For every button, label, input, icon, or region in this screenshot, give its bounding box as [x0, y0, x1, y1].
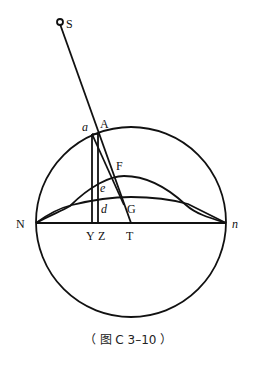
label-a: a	[82, 120, 88, 134]
line-S-T	[60, 24, 131, 223]
label-Z: Z	[98, 229, 105, 243]
label-T: T	[126, 229, 134, 243]
label-F: F	[116, 159, 123, 173]
label-Y: Y	[86, 229, 95, 243]
diagram-canvas: S A a F e d G N n Y Z T （ 图 C 3–10 ）	[0, 0, 257, 368]
label-N: N	[16, 217, 25, 231]
label-d: d	[101, 202, 108, 216]
label-A: A	[100, 117, 109, 131]
point-S-marker	[57, 19, 63, 25]
figure-caption: （ 图 C 3–10 ）	[84, 333, 173, 347]
label-e: e	[100, 181, 106, 195]
label-S: S	[66, 17, 73, 31]
label-G: G	[127, 202, 136, 216]
label-n: n	[232, 217, 238, 231]
